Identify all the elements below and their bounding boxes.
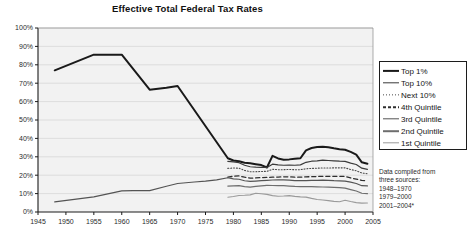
tick-label-y: 60% bbox=[19, 98, 33, 105]
tick-label-x: 1955 bbox=[86, 218, 102, 225]
chart-container: Effective Total Federal Tax Rates 0%10%2… bbox=[0, 0, 475, 239]
tick-label-x: 1990 bbox=[281, 218, 297, 225]
source-note: Data compiled fromthree sources:1948–197… bbox=[379, 168, 471, 210]
tick-label-x: 1965 bbox=[142, 218, 158, 225]
legend-swatch-icon bbox=[383, 90, 400, 100]
legend-label: 3rd Quintile bbox=[400, 115, 442, 124]
tick-label-x: 1980 bbox=[226, 218, 242, 225]
legend-item-3rd-quintile[interactable]: 3rd Quintile bbox=[383, 113, 466, 125]
legend-item-1st-quintile[interactable]: 1st Quintile bbox=[383, 137, 466, 149]
source-note-line: Data compiled from bbox=[379, 168, 471, 176]
legend-item-4th-quintile[interactable]: 4th Quintile bbox=[383, 101, 466, 113]
tick-label-y: 80% bbox=[19, 61, 33, 68]
legend-swatch-icon bbox=[383, 126, 400, 136]
legend-swatch-icon bbox=[383, 114, 400, 124]
legend-label: 1st Quintile bbox=[400, 139, 441, 148]
tick-label-y: 70% bbox=[19, 80, 33, 87]
legend-label: Top 1% bbox=[400, 67, 428, 76]
legend-label: Next 10% bbox=[400, 91, 436, 100]
tick-label-x: 1970 bbox=[170, 218, 186, 225]
chart-legend: Top 1%Top 10%Next 10%4th Quintile3rd Qui… bbox=[379, 61, 467, 150]
legend-swatch-icon bbox=[383, 102, 400, 112]
tick-label-x: 1945 bbox=[30, 218, 46, 225]
tick-label-y: 90% bbox=[19, 43, 33, 50]
legend-label: Top 10% bbox=[400, 79, 432, 88]
tick-label-y: 100% bbox=[15, 24, 33, 31]
legend-item-top-1[interactable]: Top 1% bbox=[383, 65, 466, 77]
tick-label-y: 10% bbox=[19, 190, 33, 197]
tick-label-y: 50% bbox=[19, 116, 33, 123]
legend-label: 2nd Quintile bbox=[400, 127, 444, 136]
source-note-line: three sources: bbox=[379, 176, 471, 184]
legend-swatch-icon bbox=[383, 138, 400, 148]
legend-item-next-10[interactable]: Next 10% bbox=[383, 89, 466, 101]
tick-label-x: 1975 bbox=[198, 218, 214, 225]
tick-label-x: 2000 bbox=[337, 218, 353, 225]
tick-label-y: 30% bbox=[19, 153, 33, 160]
tick-label-y: 20% bbox=[19, 172, 33, 179]
legend-item-2nd-quintile[interactable]: 2nd Quintile bbox=[383, 125, 466, 137]
tick-label-y: 0% bbox=[23, 208, 33, 215]
tick-label-x: 2005 bbox=[365, 218, 381, 225]
tick-label-x: 1960 bbox=[114, 218, 130, 225]
legend-item-top-10[interactable]: Top 10% bbox=[383, 77, 466, 89]
tick-label-y: 40% bbox=[19, 135, 33, 142]
legend-swatch-icon bbox=[383, 66, 400, 76]
tick-label-x: 1995 bbox=[309, 218, 325, 225]
source-note-line: 1948–1970 bbox=[379, 185, 471, 193]
tick-label-x: 1950 bbox=[58, 218, 74, 225]
tick-label-x: 1985 bbox=[254, 218, 270, 225]
source-note-line: 2001–2004* bbox=[379, 202, 471, 210]
source-note-line: 1979–2000 bbox=[379, 193, 471, 201]
legend-swatch-icon bbox=[383, 78, 400, 88]
legend-label: 4th Quintile bbox=[400, 103, 441, 112]
